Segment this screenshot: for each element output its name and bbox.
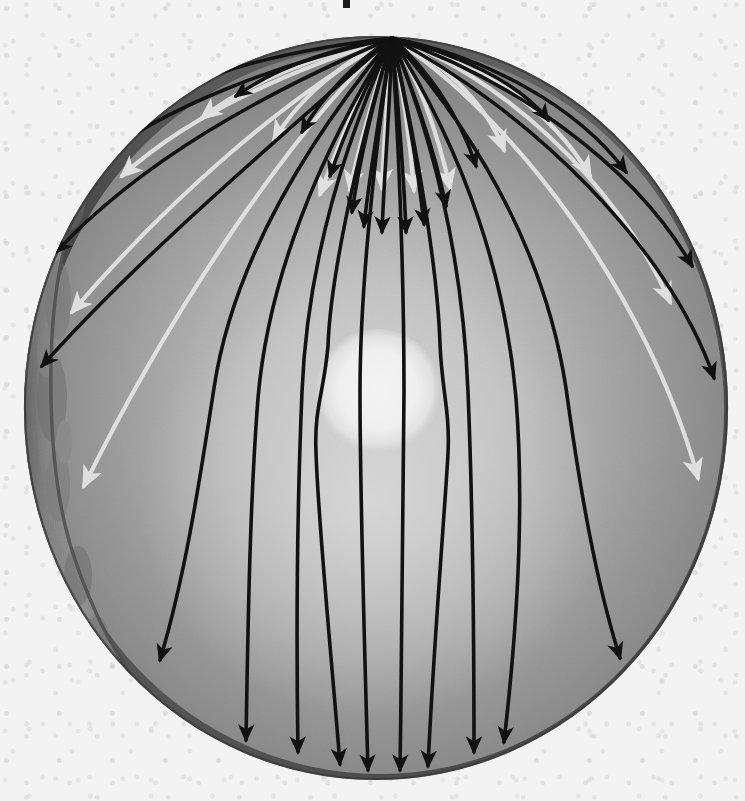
bright-core [315, 329, 441, 455]
sphere-field-line-diagram [0, 0, 745, 801]
figure-root [0, 0, 745, 801]
